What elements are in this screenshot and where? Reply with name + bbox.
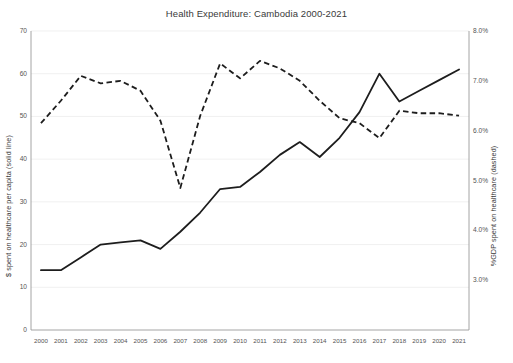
chart-title: Health Expenditure: Cambodia 2000-2021 <box>0 8 513 19</box>
y-axis-left-tick: 40 <box>1 155 27 162</box>
y-axis-right-tick: 3.0% <box>473 276 503 283</box>
series-line-1-solid <box>41 69 459 270</box>
y-axis-right-tick: 6.0% <box>473 127 503 134</box>
y-axis-left-tick: 30 <box>1 198 27 205</box>
y-axis-left-tick: 70 <box>1 27 27 34</box>
y-axis-left-tick: 20 <box>1 241 27 248</box>
y-axis-left-tick: 60 <box>1 70 27 77</box>
y-axis-right-tick: 7.0% <box>473 77 503 84</box>
y-axis-right-tick: 4.0% <box>473 226 503 233</box>
series-line-2-dashed <box>41 61 459 188</box>
y-axis-left-title: $ spent on healthcare per capita (solid … <box>4 106 13 306</box>
chart-container: Health Expenditure: Cambodia 2000-2021 $… <box>0 0 513 363</box>
y-axis-left-tick: 50 <box>1 112 27 119</box>
y-axis-left-tick: 10 <box>1 283 27 290</box>
y-axis-right-tick: 5.0% <box>473 177 503 184</box>
x-axis-tick-2021: 2021 <box>446 337 472 344</box>
y-axis-left-tick: 0 <box>1 326 27 333</box>
y-axis-right-tick: 8.0% <box>473 27 503 34</box>
plot-area <box>0 0 513 363</box>
